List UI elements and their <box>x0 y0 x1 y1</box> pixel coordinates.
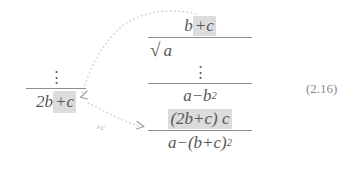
equation-number: (2.16) <box>306 81 337 97</box>
left-fraction: ⋮ 2b+c <box>26 66 86 112</box>
row-a-minus-b-squared: a−b2 <box>148 84 252 107</box>
row-two-b-plus-c-times-c: (2b+c) c <box>148 107 252 130</box>
arrowhead-right <box>137 122 145 130</box>
square-root-icon: √ <box>150 40 160 59</box>
row-a-minus-b-plus-c-squared: a−(b+c)2 <box>148 131 252 154</box>
left-denominator-lead: 2b <box>36 92 53 111</box>
equation-figure: ⋮ 2b+c b+c √a ⋮ a−b2 (2b+c) c <box>0 0 358 178</box>
left-denominator-highlight: +c <box>53 91 76 113</box>
plus-c-highlight: +c <box>193 16 216 36</box>
b-term: b <box>184 17 193 34</box>
vertical-ellipsis-icon-middle: ⋮ <box>193 67 208 78</box>
radical-expression: √a <box>150 41 172 60</box>
a-minus-bc-base: a−(b+c) <box>168 134 227 151</box>
multiplier-annotation-label: ×c <box>96 122 105 132</box>
a-minus-b-base: a−b <box>183 87 211 104</box>
product-highlight: (2b+c) c <box>168 109 231 129</box>
row-middle-ellipsis: ⋮ <box>148 62 252 83</box>
right-continued-fraction: b+c √a ⋮ a−b2 (2b+c) c a−(b+c)2 <box>148 14 252 154</box>
times-operand: c <box>101 122 105 132</box>
vertical-ellipsis-icon: ⋮ <box>49 72 64 83</box>
row-sqrt-a: √a <box>148 38 252 62</box>
radicand-a: a <box>160 42 172 59</box>
row-b-plus-c: b+c <box>148 14 252 37</box>
equation-number-text: (2.16) <box>306 81 337 96</box>
left-fraction-denominator: 2b+c <box>26 89 86 112</box>
left-fraction-numerator: ⋮ <box>26 66 86 88</box>
